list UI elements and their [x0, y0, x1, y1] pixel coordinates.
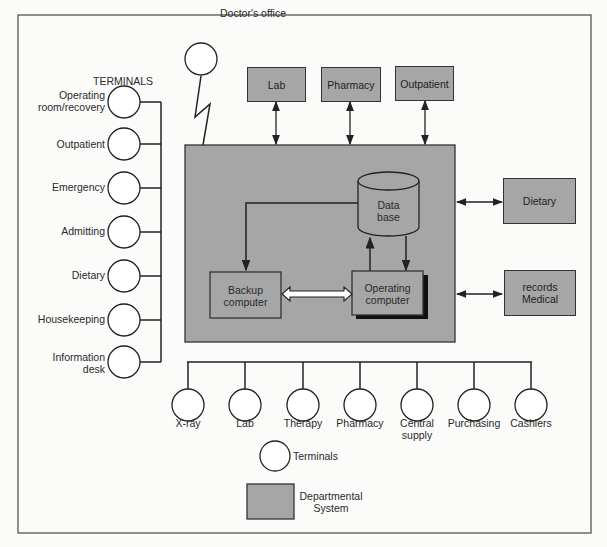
department-pharmacy: Pharmacy	[321, 67, 381, 102]
terminal-label-cashiers: Cashiers	[501, 417, 561, 429]
terminal-label-purchasing: Purchasing	[439, 417, 509, 429]
operating-computer-label: Operatingcomputer	[352, 282, 423, 306]
terminal-label-lab: Lab	[215, 417, 275, 429]
terminal-label-xray: X-ray	[158, 417, 218, 429]
legend-department-icon	[247, 484, 294, 519]
doctor-office-terminal	[185, 43, 217, 75]
terminal-label-emergency: Emergency	[52, 181, 105, 193]
terminal-label-therapy: Therapy	[273, 417, 333, 429]
terminal-label-operating-room: Operatingroom/recovery	[38, 89, 105, 113]
terminal-label-outpatient: Outpatient	[57, 138, 105, 150]
backup-computer-label: Backupcomputer	[210, 284, 281, 308]
left-terminal-circles	[108, 86, 161, 378]
department-outpatient: Outpatient	[395, 66, 454, 101]
terminal-label-pharmacy: Pharmacy	[330, 417, 390, 429]
department-medical-records: recordsMedical	[504, 270, 576, 316]
department-lab: Lab	[247, 67, 306, 102]
doctor-office-label: Doctor's office	[220, 7, 286, 19]
database-label: Database	[358, 199, 419, 223]
terminal-label-central-supply: Centralsupply	[387, 417, 447, 441]
legend-departmental-label: DepartmentalSystem	[296, 490, 366, 514]
terminal-label-housekeeping: Housekeeping	[38, 313, 105, 325]
terminals-heading: TERMINALS	[93, 75, 153, 87]
terminal-label-admitting: Admitting	[61, 225, 105, 237]
terminal-label-dietary: Dietary	[72, 269, 105, 281]
legend-terminals-label: Terminals	[293, 450, 338, 462]
wireless-link-icon	[195, 76, 210, 145]
bottom-terminal-circles	[172, 362, 547, 421]
terminal-label-information-desk: Informationdesk	[52, 351, 105, 375]
legend-terminal-icon	[260, 441, 290, 471]
department-dietary: Dietary	[503, 178, 576, 224]
